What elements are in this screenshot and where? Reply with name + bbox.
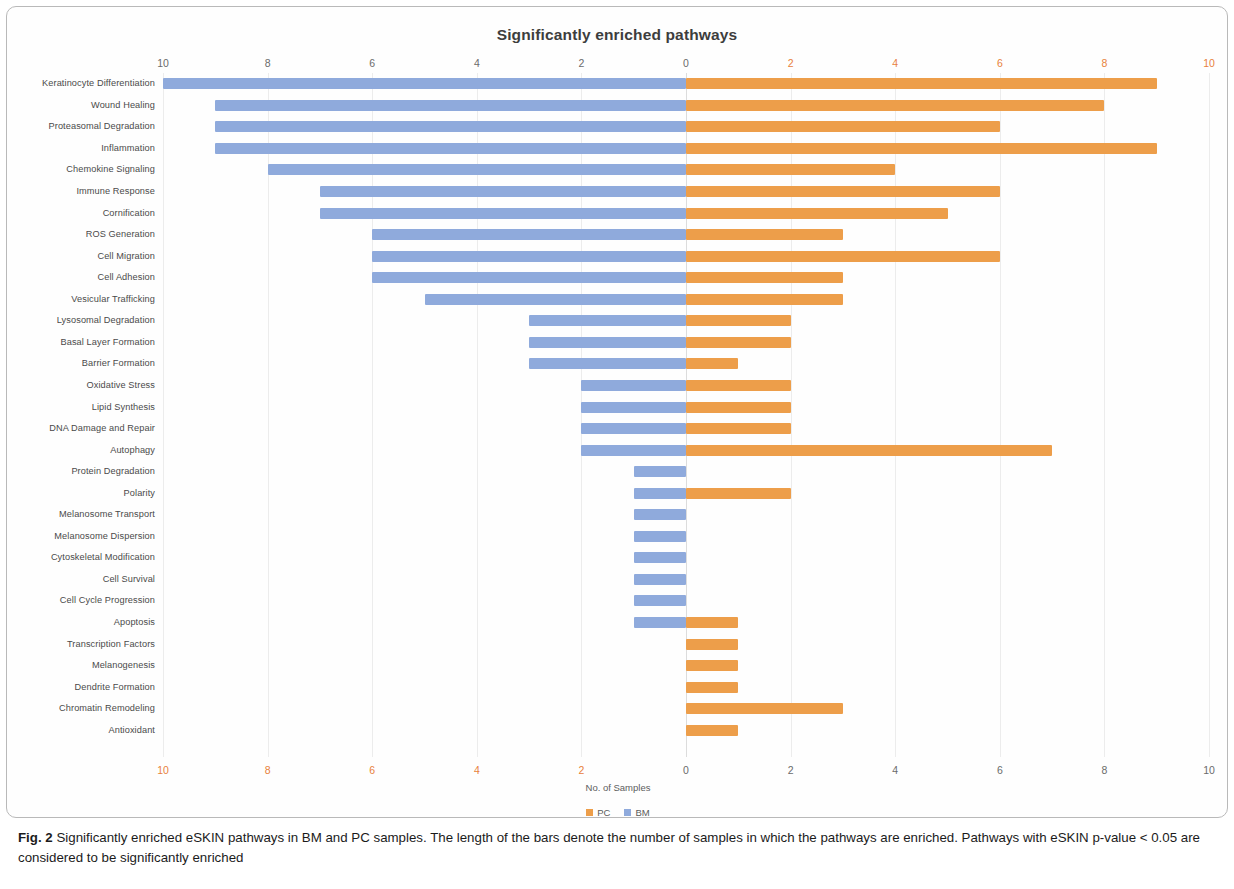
bar-pc bbox=[686, 100, 1104, 111]
bottom-axis-tick-0: 10 bbox=[157, 764, 169, 776]
chart-row: Melanogenesis bbox=[7, 655, 1228, 677]
chart-row: Autophagy bbox=[7, 439, 1228, 461]
category-label: Chromatin Remodeling bbox=[7, 703, 155, 713]
bar-bm bbox=[529, 337, 686, 348]
bar-bm bbox=[634, 617, 686, 628]
chart-legend: PCBM bbox=[7, 807, 1228, 818]
chart-row: ROS Generation bbox=[7, 224, 1228, 246]
bar-pc bbox=[686, 208, 948, 219]
figure-caption-text: Significantly enriched eSKIN pathways in… bbox=[18, 830, 1200, 865]
category-label: Proteasomal Degradation bbox=[7, 121, 155, 131]
chart-row: Basal Layer Formation bbox=[7, 332, 1228, 354]
bar-pc bbox=[686, 272, 843, 283]
top-axis-tick-0: 10 bbox=[157, 57, 169, 69]
top-axis: 1086420246810 bbox=[7, 57, 1228, 73]
chart-row: Melanosome Transport bbox=[7, 504, 1228, 526]
category-label: Transcription Factors bbox=[7, 639, 155, 649]
legend-swatch-icon bbox=[624, 809, 631, 816]
bar-pc bbox=[686, 143, 1157, 154]
category-label: Cytoskeletal Modification bbox=[7, 552, 155, 562]
bottom-axis-tick-5: 0 bbox=[683, 764, 689, 776]
bottom-axis: 1086420246810 bbox=[7, 764, 1228, 780]
top-axis-tick-8: 6 bbox=[997, 57, 1003, 69]
bar-bm bbox=[634, 574, 686, 585]
category-label: Cell Cycle Progression bbox=[7, 595, 155, 605]
top-axis-tick-1: 8 bbox=[265, 57, 271, 69]
category-label: ROS Generation bbox=[7, 229, 155, 239]
category-label: Keratinocyte Differentiation bbox=[7, 78, 155, 88]
bar-pc bbox=[686, 617, 738, 628]
top-axis-tick-4: 2 bbox=[578, 57, 584, 69]
figure-caption-label: Fig. 2 bbox=[18, 830, 53, 845]
chart-row: Cell Migration bbox=[7, 245, 1228, 267]
chart-row: Antioxidant bbox=[7, 720, 1228, 742]
bar-pc bbox=[686, 186, 1000, 197]
chart-row: Wound Healing bbox=[7, 95, 1228, 117]
bar-bm bbox=[634, 595, 686, 606]
bar-pc bbox=[686, 121, 1000, 132]
bar-pc bbox=[686, 488, 791, 499]
chart-row: Oxidative Stress bbox=[7, 375, 1228, 397]
x-axis-label: No. of Samples bbox=[7, 782, 1228, 793]
bar-pc bbox=[686, 445, 1052, 456]
legend-label: PC bbox=[597, 807, 610, 818]
category-label: Chemokine Signaling bbox=[7, 164, 155, 174]
bar-bm bbox=[372, 229, 686, 240]
category-label: Barrier Formation bbox=[7, 358, 155, 368]
chart-row: Cell Cycle Progression bbox=[7, 590, 1228, 612]
chart-row: Cornification bbox=[7, 202, 1228, 224]
bar-pc bbox=[686, 380, 791, 391]
chart-row: Cell Survival bbox=[7, 569, 1228, 591]
bar-pc bbox=[686, 660, 738, 671]
chart-row: Cytoskeletal Modification bbox=[7, 547, 1228, 569]
category-label: Basal Layer Formation bbox=[7, 337, 155, 347]
bar-bm bbox=[425, 294, 687, 305]
category-label: Vesicular Trafficking bbox=[7, 294, 155, 304]
legend-item-bm[interactable]: BM bbox=[624, 807, 649, 818]
chart-row: Keratinocyte Differentiation bbox=[7, 73, 1228, 95]
category-label: Cell Migration bbox=[7, 251, 155, 261]
bottom-axis-tick-10: 10 bbox=[1203, 764, 1215, 776]
bar-bm bbox=[634, 552, 686, 563]
bar-pc bbox=[686, 78, 1157, 89]
bottom-axis-tick-7: 4 bbox=[892, 764, 898, 776]
chart-row: Immune Response bbox=[7, 181, 1228, 203]
bar-pc bbox=[686, 251, 1000, 262]
category-label: DNA Damage and Repair bbox=[7, 423, 155, 433]
chart-row: Lysosomal Degradation bbox=[7, 310, 1228, 332]
category-label: Oxidative Stress bbox=[7, 380, 155, 390]
bar-bm bbox=[163, 78, 686, 89]
bar-bm bbox=[581, 380, 686, 391]
category-label: Cornification bbox=[7, 208, 155, 218]
bar-bm bbox=[372, 251, 686, 262]
bar-pc bbox=[686, 682, 738, 693]
bar-bm bbox=[581, 402, 686, 413]
category-label: Dendrite Formation bbox=[7, 682, 155, 692]
category-label: Polarity bbox=[7, 488, 155, 498]
chart-title: Significantly enriched pathways bbox=[7, 26, 1227, 44]
category-label: Melanosome Dispersion bbox=[7, 531, 155, 541]
bar-pc bbox=[686, 358, 738, 369]
bottom-axis-tick-9: 8 bbox=[1101, 764, 1107, 776]
chart-row: DNA Damage and Repair bbox=[7, 418, 1228, 440]
top-axis-tick-9: 8 bbox=[1101, 57, 1107, 69]
bar-bm bbox=[372, 272, 686, 283]
legend-label: BM bbox=[635, 807, 649, 818]
chart-row: Melanosome Dispersion bbox=[7, 526, 1228, 548]
bar-pc bbox=[686, 229, 843, 240]
top-axis-tick-2: 6 bbox=[369, 57, 375, 69]
chart-row: Chromatin Remodeling bbox=[7, 698, 1228, 720]
bottom-axis-tick-6: 2 bbox=[788, 764, 794, 776]
bar-bm bbox=[320, 208, 686, 219]
category-label: Apoptosis bbox=[7, 617, 155, 627]
bar-bm bbox=[581, 423, 686, 434]
bar-bm bbox=[581, 445, 686, 456]
bar-bm bbox=[529, 358, 686, 369]
bar-pc bbox=[686, 639, 738, 650]
legend-item-pc[interactable]: PC bbox=[586, 807, 610, 818]
chart-row: Dendrite Formation bbox=[7, 676, 1228, 698]
bar-bm bbox=[634, 488, 686, 499]
bar-bm bbox=[215, 143, 686, 154]
chart-row: Cell Adhesion bbox=[7, 267, 1228, 289]
chart-row: Transcription Factors bbox=[7, 633, 1228, 655]
